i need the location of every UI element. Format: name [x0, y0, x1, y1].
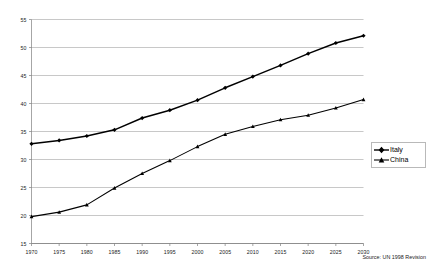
y-tick-label: 45 — [11, 73, 27, 79]
legend-item-italy[interactable]: Italy — [373, 145, 423, 155]
series-lines-group — [29, 34, 365, 219]
x-tick-label: 2005 — [213, 249, 237, 255]
y-tick-label: 40 — [11, 101, 27, 107]
x-tick-label: 1980 — [75, 249, 99, 255]
legend-label-china: China — [390, 155, 408, 165]
y-tick-label: 25 — [11, 185, 27, 191]
y-tick-label: 15 — [11, 241, 27, 247]
x-tick-label: 1970 — [20, 249, 44, 255]
series-line — [32, 36, 364, 144]
chart-plot-area — [0, 0, 432, 270]
x-tick-label: 1985 — [103, 249, 127, 255]
x-tick-label: 2020 — [296, 249, 320, 255]
x-tick-label: 2025 — [324, 249, 348, 255]
y-tick-label: 20 — [11, 213, 27, 219]
data-point-marker — [85, 134, 89, 138]
y-tick-label: 50 — [11, 45, 27, 51]
data-point-marker — [57, 138, 61, 142]
data-point-marker — [361, 34, 365, 38]
y-tick-label: 35 — [11, 129, 27, 135]
chart-container: 152025303540455055 197019751980198519901… — [0, 0, 432, 270]
x-tick-label: 1975 — [47, 249, 71, 255]
data-point-marker — [251, 75, 255, 79]
legend-label-italy: Italy — [390, 145, 403, 155]
data-point-marker — [334, 41, 338, 45]
data-point-marker — [29, 142, 33, 146]
legend-marker-triangle-icon — [373, 155, 390, 165]
legend-marker-diamond-icon — [373, 145, 390, 155]
x-tick-label: 2010 — [241, 249, 265, 255]
series-italy — [29, 34, 365, 146]
x-tick-label: 2015 — [269, 249, 293, 255]
series-china — [30, 98, 366, 219]
data-point-marker — [278, 63, 282, 67]
x-tick-label: 1990 — [130, 249, 154, 255]
source-note: Source: UN 1998 Revision — [362, 254, 426, 261]
data-point-marker — [168, 108, 172, 112]
x-tick-label: 2000 — [186, 249, 210, 255]
data-point-marker — [362, 98, 366, 102]
data-point-marker — [306, 52, 310, 56]
x-tick-label: 1995 — [158, 249, 182, 255]
gridlines-group — [32, 20, 364, 244]
legend-item-china[interactable]: China — [373, 155, 423, 165]
series-line — [32, 100, 364, 217]
chart-legend: Italy China — [371, 142, 426, 168]
data-point-marker — [140, 116, 144, 120]
y-tick-label: 55 — [11, 17, 27, 23]
y-tick-label: 30 — [11, 157, 27, 163]
